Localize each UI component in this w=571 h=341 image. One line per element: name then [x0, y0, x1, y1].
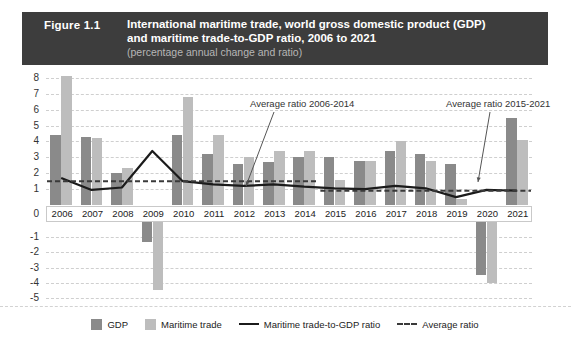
legend-item-gdp[interactable]: GDP	[91, 319, 128, 330]
legend-label: Maritime trade-to-GDP ratio	[264, 319, 381, 330]
legend-item-average-ratio[interactable]: Average ratio	[397, 319, 478, 330]
legend-swatch-icon	[145, 319, 156, 330]
figure-title-line1: International maritime trade, world gros…	[127, 18, 537, 32]
legend-label: Maritime trade	[161, 319, 222, 330]
legend-swatch-icon	[91, 319, 102, 330]
figure-title: International maritime trade, world gros…	[127, 18, 537, 45]
legend-line-icon	[239, 323, 259, 325]
figure-root: Figure 1.1 International maritime trade,…	[0, 0, 571, 341]
annotation-arrow-2006-2014	[246, 112, 274, 186]
figure-title-line2: and maritime trade-to-GDP ratio, 2006 to…	[127, 32, 537, 46]
figure-subtitle: (percentage annual change and ratio)	[127, 46, 302, 58]
chart-legend: GDPMaritime tradeMaritime trade-to-GDP r…	[22, 316, 548, 332]
annotation-arrow-2015-2021	[477, 112, 490, 182]
annotation-average-ratio-2006-2014: Average ratio 2006-2014	[250, 98, 354, 109]
figure-number: Figure 1.1	[44, 19, 100, 31]
legend-label: Average ratio	[422, 319, 478, 330]
annotation-average-ratio-2015-2021: Average ratio 2015-2021	[446, 98, 550, 109]
legend-item-maritime-trade[interactable]: Maritime trade	[145, 319, 222, 330]
legend-dashed-icon	[397, 323, 417, 325]
legend-label: GDP	[107, 319, 128, 330]
chart-plot: 87654321 0 20062007200820092010201120122…	[22, 70, 548, 328]
figure-header-band: Figure 1.1 International maritime trade,…	[22, 12, 548, 65]
legend-item-maritime-trade-to-gdp-ratio[interactable]: Maritime trade-to-GDP ratio	[239, 319, 381, 330]
bottom-divider	[0, 306, 571, 307]
